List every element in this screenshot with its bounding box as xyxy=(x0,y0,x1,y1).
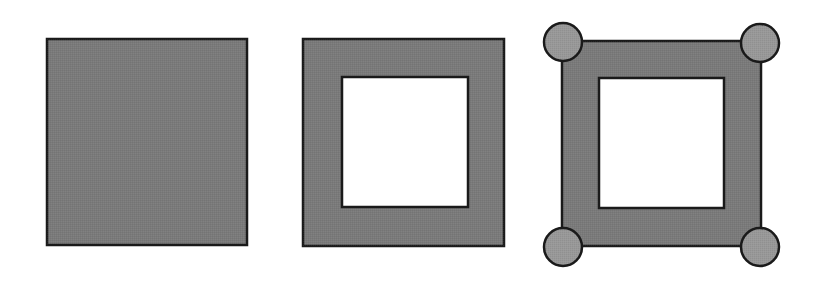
hollow-square xyxy=(303,39,504,246)
solid-square xyxy=(47,39,247,245)
corner-circle-texture xyxy=(742,229,778,265)
corner-circle-texture xyxy=(545,24,581,60)
inner-hole xyxy=(599,78,724,208)
corner-circle-texture xyxy=(742,25,778,61)
hollow-square-with-corner-circles xyxy=(544,23,779,266)
outer-square-texture xyxy=(47,39,247,245)
corner-circle-texture xyxy=(545,229,581,265)
inner-hole xyxy=(342,77,468,207)
shapes-layer xyxy=(47,23,779,266)
diagram-canvas xyxy=(0,0,815,290)
